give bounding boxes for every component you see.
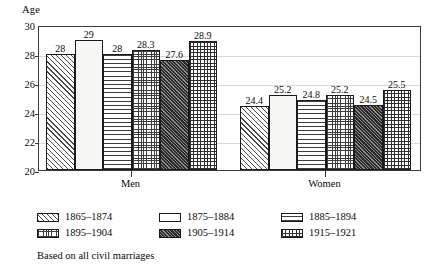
legend-swatch-icon <box>281 229 303 238</box>
bar <box>160 60 189 170</box>
bar <box>75 40 104 171</box>
legend-item[interactable]: 1895–1904 <box>37 225 159 241</box>
legend-label: 1905–1914 <box>187 228 234 239</box>
bar-chart: Age 202224262830 28292828.327.628.924.42… <box>0 0 439 274</box>
bar-value-label: 28 <box>46 44 75 54</box>
legend-label: 1915–1921 <box>309 228 356 239</box>
bar-value-label: 24.4 <box>240 96 269 106</box>
y-axis-title: Age <box>22 4 40 15</box>
x-tick-mark <box>325 171 326 177</box>
chart-footnote: Based on all civil marriages <box>37 250 154 261</box>
legend: 1865–18741875–18841885–18941895–19041905… <box>37 209 403 241</box>
y-tick-label: 30 <box>25 22 36 33</box>
bar-value-label: 25.2 <box>269 85 298 95</box>
legend-label: 1865–1874 <box>65 212 112 223</box>
bar <box>240 106 269 170</box>
legend-swatch-icon <box>37 229 59 238</box>
bar <box>269 95 298 170</box>
bar <box>297 100 326 170</box>
bar-value-label: 28 <box>103 44 132 54</box>
bar-value-label: 24.5 <box>354 95 383 105</box>
x-axis-group-label: Women <box>308 178 340 189</box>
legend-swatch-icon <box>159 213 181 222</box>
y-tick-label: 28 <box>25 51 36 62</box>
legend-item[interactable]: 1905–1914 <box>159 225 281 241</box>
legend-label: 1885–1894 <box>309 212 356 223</box>
y-tick-mark <box>35 172 39 173</box>
bar-value-label: 27.6 <box>160 50 189 60</box>
y-tick-label: 26 <box>25 80 36 91</box>
bar <box>46 54 75 170</box>
x-tick-mark <box>131 171 132 177</box>
legend-label: 1875–1884 <box>187 212 234 223</box>
legend-item[interactable]: 1865–1874 <box>37 209 159 225</box>
plot-area: 202224262830 28292828.327.628.924.425.22… <box>38 26 421 171</box>
bar-value-label: 29 <box>75 30 104 40</box>
y-tick-label: 24 <box>25 109 36 120</box>
bar-value-label: 25.2 <box>326 85 355 95</box>
bar <box>383 90 412 170</box>
legend-label: 1895–1904 <box>65 228 112 239</box>
y-tick-label: 20 <box>25 167 36 178</box>
bar <box>326 95 355 170</box>
legend-item[interactable]: 1915–1921 <box>281 225 403 241</box>
x-axis-group-label: Men <box>121 178 140 189</box>
legend-item[interactable]: 1875–1884 <box>159 209 281 225</box>
bar <box>103 54 132 170</box>
bar <box>132 50 161 170</box>
bar-value-label: 24.8 <box>297 90 326 100</box>
legend-swatch-icon <box>281 213 303 222</box>
bar-value-label: 28.9 <box>189 31 218 41</box>
bar-value-label: 25.5 <box>383 80 412 90</box>
legend-swatch-icon <box>37 213 59 222</box>
legend-swatch-icon <box>159 229 181 238</box>
legend-item[interactable]: 1885–1894 <box>281 209 403 225</box>
bar-value-label: 28.3 <box>132 40 161 50</box>
bar <box>189 41 218 170</box>
bars-group: 28292828.327.628.924.425.224.825.224.525… <box>39 27 420 170</box>
bar <box>354 105 383 170</box>
y-tick-label: 22 <box>25 138 36 149</box>
